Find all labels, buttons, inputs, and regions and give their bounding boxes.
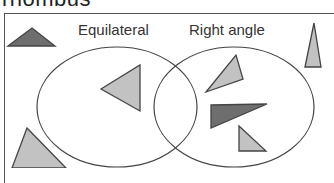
sets-layer: [37, 47, 314, 167]
triangle-right-small: [239, 126, 266, 151]
set-label-equilateral: Equilateral: [78, 21, 149, 38]
triangles-layer: [8, 23, 321, 168]
triangle-outside-tall-right: [305, 23, 321, 67]
triangle-equilateral-only: [101, 65, 140, 111]
triangle-right-dark: [211, 104, 267, 128]
triangle-outside-dark-topleft: [8, 28, 55, 46]
set-ellipse-equilateral: [37, 47, 197, 167]
triangle-right-upper: [206, 55, 243, 92]
set-label-right-angle: Right angle: [189, 21, 265, 38]
